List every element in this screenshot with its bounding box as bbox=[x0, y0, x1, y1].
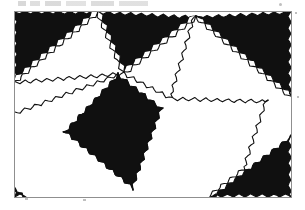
tessellation-figure bbox=[0, 0, 305, 210]
figure-root bbox=[0, 0, 305, 210]
